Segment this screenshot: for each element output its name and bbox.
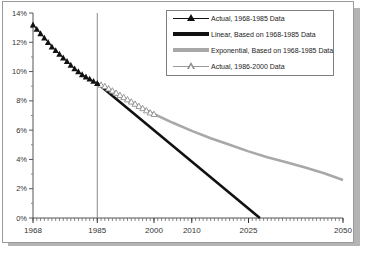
data-marker-filled-triangle	[30, 22, 36, 28]
y-tick-label: 6%	[16, 126, 27, 135]
x-tick-label: 2025	[240, 226, 258, 235]
x-tick-label: 1985	[88, 226, 106, 235]
legend-key-thick-black-line-icon	[171, 28, 211, 42]
legend-label: Exponential, Based on 1968-1985 Data	[211, 46, 333, 56]
series-line-actual-1968-1985-data	[33, 25, 97, 84]
y-tick-label: 10%	[12, 67, 27, 76]
legend-item-actual-1968-1985: Actual, 1968-1985 Data	[167, 11, 333, 27]
y-tick-label: 8%	[16, 96, 27, 105]
y-tick-label: 0%	[16, 214, 27, 223]
x-tick-label: 1968	[24, 226, 42, 235]
figure-panel: 0%2%4%6%8%10%12%14%196819852000201020252…	[2, 1, 354, 243]
series-line-linear-based-on-1968-1985-data	[97, 83, 260, 218]
legend-key-thick-gray-line-icon	[171, 44, 211, 58]
legend-item-actual-1986-2000: Actual, 1986-2000 Data	[167, 59, 333, 75]
chart-legend: Actual, 1968-1985 Data Linear, Based on …	[166, 10, 334, 76]
x-tick-label: 2000	[145, 226, 163, 235]
x-tick-label: 2010	[183, 226, 201, 235]
legend-item-linear: Linear, Based on 1968-1985 Data	[167, 27, 333, 43]
y-tick-label: 14%	[12, 9, 27, 18]
legend-label: Actual, 1986-2000 Data	[211, 62, 285, 72]
series-line-exponential-based-on-1968-1985-data	[97, 83, 343, 180]
y-tick-label: 4%	[16, 155, 27, 164]
legend-key-filled-triangle-icon	[171, 12, 211, 26]
legend-label: Actual, 1968-1985 Data	[211, 14, 285, 24]
y-tick-label: 2%	[16, 184, 27, 193]
legend-key-open-triangle-icon	[171, 60, 211, 74]
legend-item-exponential: Exponential, Based on 1968-1985 Data	[167, 43, 333, 59]
x-tick-label: 2050	[334, 226, 352, 235]
y-tick-label: 12%	[12, 38, 27, 47]
legend-label: Linear, Based on 1968-1985 Data	[211, 30, 316, 40]
chart-screenshot: 0%2%4%6%8%10%12%14%196819852000201020252…	[0, 0, 368, 257]
